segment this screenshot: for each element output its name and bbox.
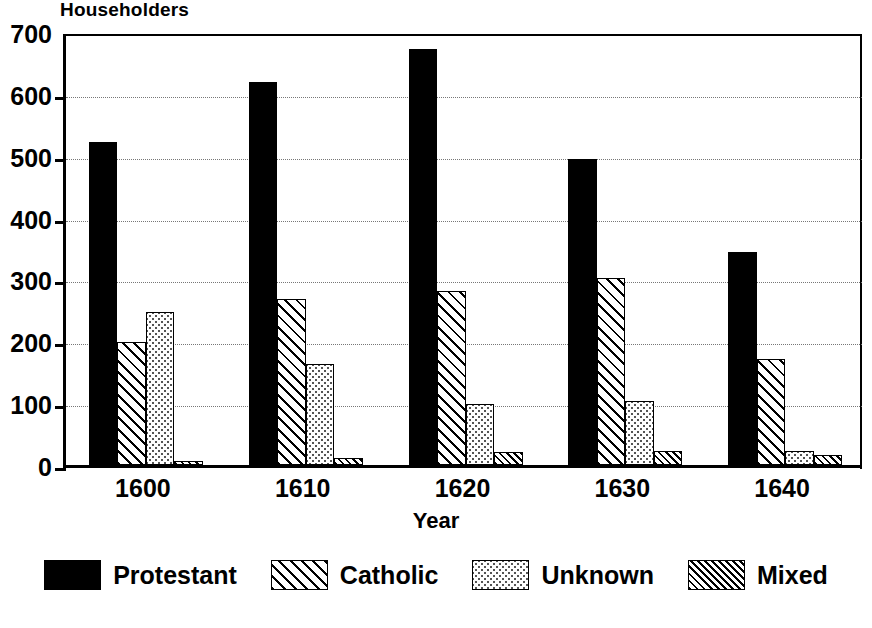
legend-item-catholic[interactable]: Catholic (271, 560, 439, 590)
bar-unknown-1600 (146, 312, 175, 465)
bar-unknown-1640 (785, 451, 814, 465)
y-axis-tick-label: 400 (0, 208, 52, 233)
bar-protestant-1600 (89, 142, 118, 465)
gridline (66, 97, 862, 98)
y-axis-tick (55, 221, 66, 224)
x-axis-tick-label: 1600 (83, 476, 203, 501)
y-axis-tick-label: 600 (0, 84, 52, 109)
x-axis-tick-label: 1620 (403, 476, 523, 501)
bar-mixed-1620 (494, 452, 523, 465)
bar-protestant-1630 (568, 159, 597, 465)
legend-swatch-unknown-icon (472, 560, 529, 590)
bar-protestant-1640 (728, 252, 757, 465)
y-axis-tick (55, 406, 66, 409)
bar-unknown-1630 (625, 401, 654, 465)
legend-label: Unknown (541, 561, 654, 590)
y-axis-tick-label: 300 (0, 269, 52, 294)
plot-area (63, 35, 862, 468)
legend-label: Catholic (340, 561, 439, 590)
bar-unknown-1610 (306, 364, 335, 465)
bar-catholic-1620 (437, 291, 466, 465)
y-axis-tick-label: 200 (0, 331, 52, 356)
y-axis-tick (55, 344, 66, 347)
x-axis-tick-label: 1640 (722, 476, 842, 501)
bar-protestant-1610 (249, 82, 278, 466)
bar-mixed-1640 (814, 455, 843, 465)
bar-catholic-1610 (277, 299, 306, 465)
legend-swatch-mixed-icon (688, 560, 745, 590)
y-axis-tick (55, 282, 66, 285)
legend-swatch-catholic-icon (271, 560, 328, 590)
legend-item-protestant[interactable]: Protestant (44, 560, 237, 590)
y-axis-tick (55, 97, 66, 100)
y-axis-tick-label: 700 (0, 22, 52, 47)
legend-label: Mixed (757, 561, 828, 590)
legend-label: Protestant (113, 561, 237, 590)
bar-chart: Householders 0100200300400500600700 1600… (0, 0, 872, 628)
y-axis-tick (55, 159, 66, 162)
y-axis-tick-label: 100 (0, 393, 52, 418)
bar-catholic-1640 (757, 359, 786, 465)
bar-protestant-1620 (409, 49, 438, 465)
legend-item-mixed[interactable]: Mixed (688, 560, 828, 590)
chart-legend: ProtestantCatholicUnknownMixed (0, 560, 872, 590)
legend-swatch-protestant-icon (44, 560, 101, 590)
x-axis-title: Year (0, 508, 872, 534)
bar-catholic-1630 (597, 278, 626, 465)
bar-mixed-1630 (654, 451, 683, 465)
bar-mixed-1610 (334, 458, 363, 465)
bar-mixed-1600 (174, 461, 203, 465)
bar-unknown-1620 (466, 404, 495, 465)
y-axis-tick-label: 500 (0, 146, 52, 171)
bar-catholic-1600 (117, 342, 146, 465)
gridline (66, 221, 862, 222)
y-axis-tick (55, 468, 66, 471)
x-axis-tick-label: 1610 (243, 476, 363, 501)
legend-item-unknown[interactable]: Unknown (472, 560, 654, 590)
y-axis-tick-label: 0 (0, 455, 52, 480)
gridline (66, 159, 862, 160)
x-axis-tick-label: 1630 (562, 476, 682, 501)
